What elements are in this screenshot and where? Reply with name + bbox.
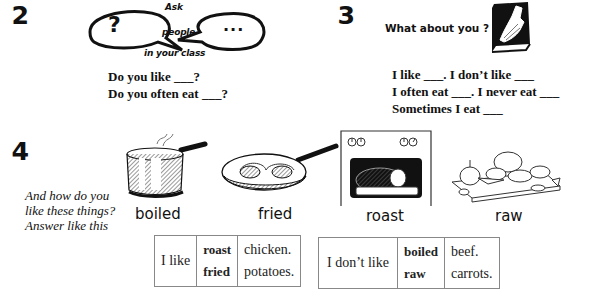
food-carrots: carrots. bbox=[451, 263, 493, 285]
question-2: Do you often eat ___? bbox=[108, 85, 228, 102]
food-cell: beef. carrots. bbox=[444, 238, 499, 289]
frying-pan-icon bbox=[220, 140, 340, 202]
instruction-line-1: And how do you bbox=[25, 188, 109, 203]
question-mark-icon: ? bbox=[108, 12, 121, 37]
food-chicken: chicken. bbox=[244, 239, 294, 261]
answer-table-like: I like roast fried chicken. potatoes. bbox=[154, 235, 301, 287]
method-label-roast: roast bbox=[366, 207, 404, 225]
exercise-number-2: 2 bbox=[12, 4, 30, 28]
statement-3: Sometimes I eat ___ bbox=[392, 100, 503, 117]
method-fried: fried bbox=[203, 261, 231, 283]
exercise-number-3: 3 bbox=[338, 4, 356, 28]
ellipsis-icon: ... bbox=[223, 16, 244, 35]
instruction-line-2: like these things? bbox=[25, 203, 115, 218]
method-label-boiled: boiled bbox=[135, 205, 181, 223]
prompt-what-about-you: What about you ? bbox=[385, 22, 489, 34]
method-label-fried: fried bbox=[258, 205, 292, 223]
ask-line-3: in your class bbox=[144, 48, 205, 58]
vegetables-icon bbox=[448, 150, 564, 205]
question-1: Do you like ___? bbox=[108, 68, 200, 85]
method-raw: raw bbox=[404, 263, 438, 285]
saucepan-icon bbox=[125, 132, 210, 200]
method-roast: roast bbox=[203, 239, 231, 261]
exercise-number-4: 4 bbox=[12, 140, 30, 164]
food-cell: chicken. potatoes. bbox=[238, 236, 301, 287]
answer-table-dislike: I don’t like boiled raw beef. carrots. bbox=[318, 237, 500, 289]
method-label-raw: raw bbox=[495, 207, 523, 225]
food-beef: beef. bbox=[451, 241, 493, 263]
method-cell: roast fried bbox=[197, 236, 238, 287]
food-potatoes: potatoes. bbox=[244, 261, 294, 283]
ask-line-2: people bbox=[162, 27, 195, 37]
method-boiled: boiled bbox=[404, 241, 438, 263]
subject-cell: I don’t like bbox=[319, 238, 398, 289]
subject-cell: I like bbox=[155, 236, 197, 287]
ask-line-1: Ask bbox=[165, 2, 183, 12]
statement-1: I like ___. I don’t like ___ bbox=[392, 66, 534, 83]
instruction-line-3: Answer like this bbox=[25, 218, 108, 233]
statement-2: I often eat ___. I never eat ___ bbox=[392, 83, 559, 100]
method-cell: boiled raw bbox=[397, 238, 444, 289]
pointing-hand-icon bbox=[490, 0, 534, 56]
oven-icon bbox=[340, 130, 432, 208]
